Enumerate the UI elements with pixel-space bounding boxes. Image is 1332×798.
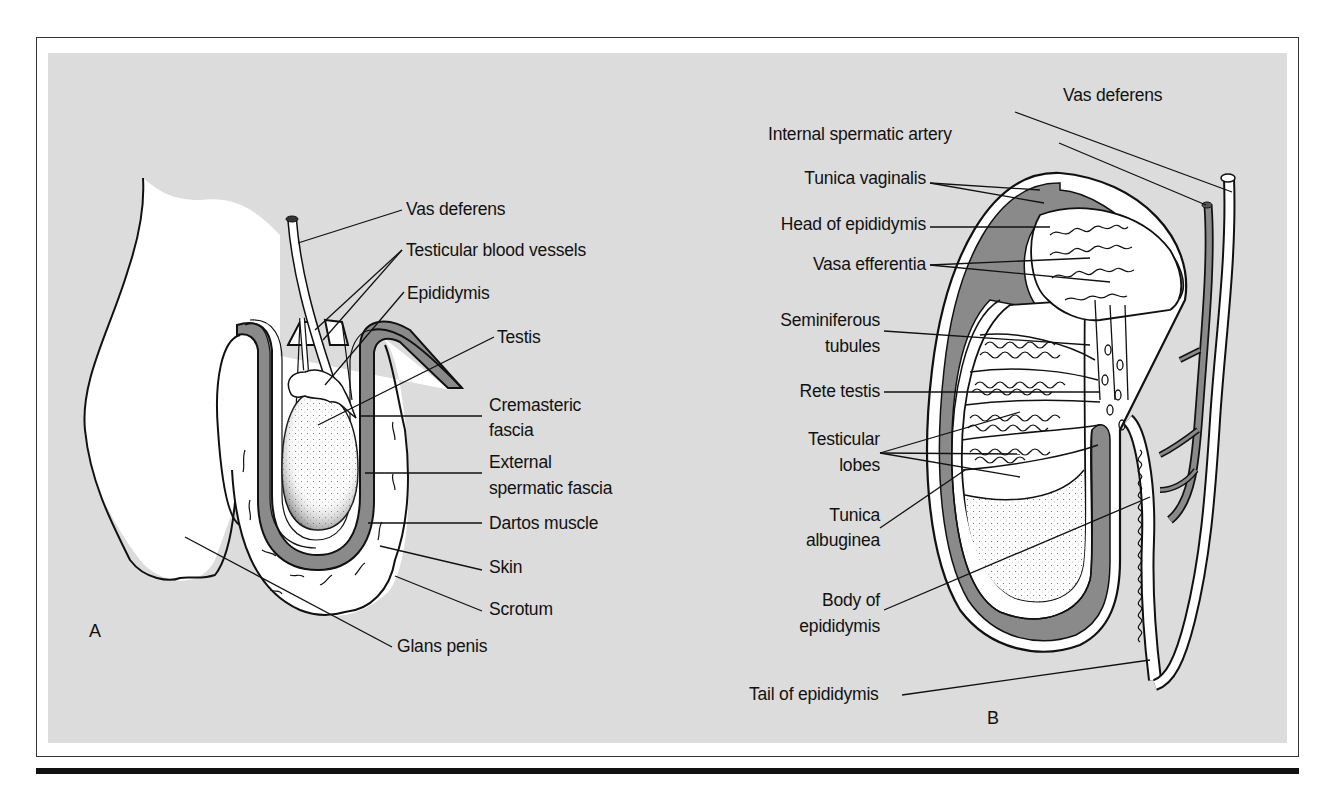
label-b-seminiferous-tubules-line1: Seminiferous — [720, 310, 880, 331]
label-a-glans-penis: Glans penis — [397, 636, 487, 657]
panel-a-letter: A — [89, 621, 101, 642]
panel-b-drawing — [880, 112, 1235, 695]
label-b-head-of-epididymis: Head of epididymis — [700, 214, 926, 235]
label-a-testicular-blood-vessels: Testicular blood vessels — [406, 240, 586, 261]
label-a-epididymis: Epididymis — [407, 283, 490, 304]
label-a-vas-deferens: Vas deferens — [406, 199, 505, 220]
label-b-internal-spermatic-artery: Internal spermatic artery — [768, 124, 952, 145]
label-b-testicular-lobes-line2: lobes — [720, 455, 880, 476]
anatomy-illustration — [0, 0, 1332, 798]
label-a-scrotum: Scrotum — [489, 599, 553, 620]
label-b-tail-of-epididymis: Tail of epididymis — [749, 684, 879, 705]
label-a-cremasteric-fascia-line2: fascia — [489, 420, 534, 441]
label-b-testicular-lobes-line1: Testicular — [720, 429, 880, 450]
label-b-vasa-efferentia: Vasa efferentia — [720, 254, 926, 275]
label-a-testis: Testis — [497, 327, 541, 348]
label-a-cremasteric-fascia-line1: Cremasteric — [489, 395, 581, 416]
label-a-skin: Skin — [489, 557, 522, 578]
label-b-rete-testis: Rete testis — [720, 381, 880, 402]
label-b-body-of-epididymis-line2: epididymis — [720, 616, 880, 637]
label-b-vas-deferens: Vas deferens — [1063, 85, 1162, 106]
panel-b-letter: B — [987, 708, 999, 729]
label-b-tunica-vaginalis: Tunica vaginalis — [720, 168, 926, 189]
label-b-body-of-epididymis-line1: Body of — [720, 590, 880, 611]
label-a-dartos-muscle: Dartos muscle — [489, 513, 598, 534]
label-b-tunica-albuginea-line2: albuginea — [720, 530, 880, 551]
label-b-seminiferous-tubules-line2: tubules — [720, 336, 880, 357]
label-a-external-spermatic-fascia-line1: External — [489, 452, 552, 473]
label-a-external-spermatic-fascia-line2: spermatic fascia — [489, 478, 612, 499]
label-b-tunica-albuginea-line1: Tunica — [720, 505, 880, 526]
